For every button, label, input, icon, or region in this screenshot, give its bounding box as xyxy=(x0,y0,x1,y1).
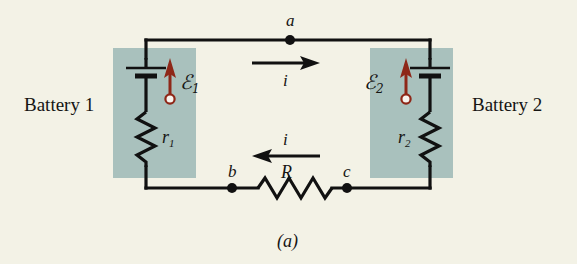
node-a-label: a xyxy=(286,12,295,29)
emf-2-symbol: ℰ xyxy=(364,70,376,94)
node-b-label: b xyxy=(228,163,237,180)
battery-1-internal-resistance-label: r1 xyxy=(162,128,175,149)
r1-subscript: 1 xyxy=(169,137,175,149)
emf-1-symbol: ℰ xyxy=(180,70,192,94)
emf-2-subscript: 2 xyxy=(376,82,384,96)
battery-2-label: Battery 2 xyxy=(472,95,542,114)
current-top-label: i xyxy=(283,72,288,89)
current-bottom-label: i xyxy=(283,131,288,148)
circuit-svg xyxy=(0,0,577,264)
battery-1-emf-label: ℰ1 xyxy=(180,72,200,95)
node-c-dot xyxy=(342,183,352,193)
node-b-dot xyxy=(227,183,237,193)
r1-symbol: r xyxy=(162,127,169,147)
r2-subscript: 2 xyxy=(405,137,411,149)
battery-1-label: Battery 1 xyxy=(24,95,94,114)
node-c-label: c xyxy=(343,163,351,180)
figure-caption: (a) xyxy=(277,232,298,250)
external-resistor-label: R xyxy=(281,163,292,181)
circuit-figure: Battery 1 Battery 2 ℰ1 ℰ2 r1 r2 a b c i … xyxy=(0,0,577,264)
battery-2-internal-resistance-label: r2 xyxy=(398,128,411,149)
current-top-arrow xyxy=(252,56,320,70)
emf-1-subscript: 1 xyxy=(192,82,200,96)
r2-symbol: r xyxy=(398,127,405,147)
node-a-dot xyxy=(285,35,295,45)
battery-2-emf-label: ℰ2 xyxy=(364,72,384,95)
current-bottom-arrow xyxy=(252,149,320,163)
external-resistor-zigzag xyxy=(258,178,332,198)
